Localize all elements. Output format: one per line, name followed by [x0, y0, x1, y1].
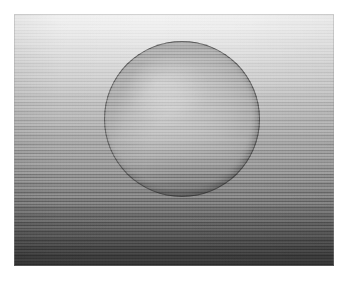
- page-canvas: [0, 0, 356, 283]
- figure-edge-border: [14, 14, 334, 266]
- figure-image: [14, 14, 334, 266]
